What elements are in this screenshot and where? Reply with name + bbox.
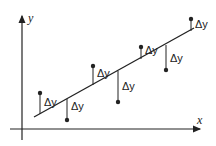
residual-1: Δy — [38, 91, 58, 114]
data-point — [189, 17, 193, 21]
delta-y-label: Δy — [195, 18, 208, 30]
x-axis-label: x — [196, 113, 203, 127]
delta-y-label: Δy — [97, 67, 110, 79]
data-point — [38, 91, 42, 95]
residual-6: Δy — [164, 45, 184, 72]
data-point — [164, 68, 168, 72]
data-points: ΔyΔyΔyΔyΔyΔyΔy — [38, 17, 209, 122]
delta-y-label: Δy — [122, 80, 135, 92]
data-point — [65, 118, 69, 122]
residual-2: Δy — [65, 99, 85, 122]
delta-y-label: Δy — [71, 100, 84, 112]
delta-y-label: Δy — [44, 96, 57, 108]
regression-residuals-diagram: y x ΔyΔyΔyΔyΔyΔyΔy — [0, 0, 216, 146]
data-point — [139, 45, 143, 49]
regression-line — [34, 28, 194, 117]
residual-3: Δy — [91, 64, 111, 85]
delta-y-label: Δy — [170, 52, 183, 64]
data-point — [116, 100, 120, 104]
data-point — [91, 64, 95, 68]
delta-y-label: Δy — [145, 44, 158, 56]
residual-4: Δy — [116, 71, 136, 104]
y-axis-label: y — [27, 11, 34, 25]
